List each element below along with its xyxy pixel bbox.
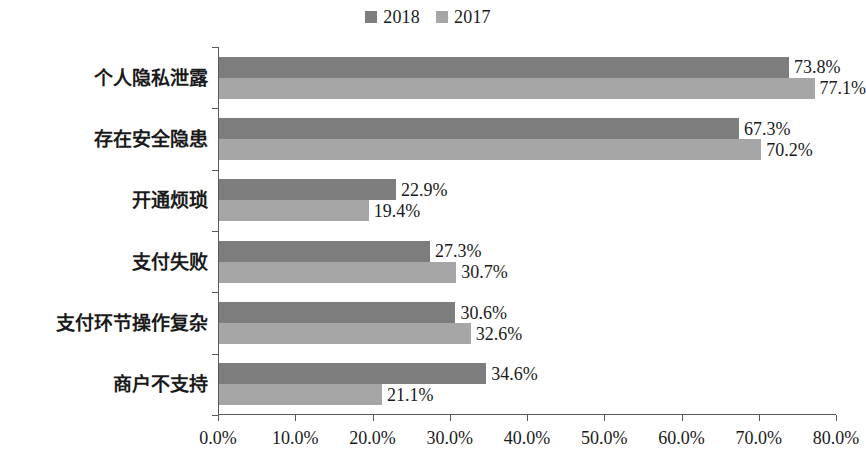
- x-axis-tick: [450, 415, 451, 421]
- bar-2018-3: [219, 179, 396, 200]
- bar-value-label: 19.4%: [374, 202, 421, 220]
- bar-value-label: 34.6%: [491, 365, 538, 383]
- bar-value-label: 32.6%: [476, 325, 523, 343]
- bar-2017-2: [219, 139, 761, 160]
- y-axis-tick: [212, 292, 218, 293]
- bar-2017-6: [219, 384, 382, 405]
- x-axis-tick: [604, 415, 605, 421]
- x-axis-tick: [373, 415, 374, 421]
- bar-value-label: 77.1%: [820, 79, 866, 97]
- legend-label-2018: 2018: [383, 8, 420, 26]
- bar-2018-1: [219, 57, 789, 78]
- bar-value-label: 27.3%: [435, 242, 482, 260]
- x-axis-tick-label: 40.0%: [504, 429, 551, 447]
- bar-2018-2: [219, 118, 739, 139]
- x-axis-tick-label: 60.0%: [658, 429, 705, 447]
- legend-entry-2018: 2018: [365, 8, 420, 26]
- bar-value-label: 30.7%: [461, 263, 508, 281]
- x-axis-tick-label: 10.0%: [272, 429, 319, 447]
- legend-entry-2017: 2017: [436, 8, 491, 26]
- y-axis-category-label: 个人隐私泄露: [10, 68, 208, 87]
- plot-area: 0.0%10.0%20.0%30.0%40.0%50.0%60.0%70.0%8…: [218, 47, 836, 415]
- y-axis-category-label: 支付失败: [10, 252, 208, 271]
- legend-swatch-2017: [436, 11, 448, 23]
- bar-value-label: 22.9%: [401, 181, 448, 199]
- x-axis-tick-label: 20.0%: [349, 429, 396, 447]
- legend-label-2017: 2017: [454, 8, 491, 26]
- y-axis-tick: [212, 415, 218, 416]
- y-axis-tick: [212, 108, 218, 109]
- x-axis-tick: [836, 415, 837, 421]
- x-axis-tick-label: 80.0%: [813, 429, 860, 447]
- bar-2018-6: [219, 363, 486, 384]
- x-axis-tick: [295, 415, 296, 421]
- bar-2018-5: [219, 302, 455, 323]
- y-axis-tick: [212, 170, 218, 171]
- bar-value-label: 30.6%: [460, 304, 507, 322]
- y-axis-category-label: 商户不支持: [10, 375, 208, 394]
- x-axis-tick: [682, 415, 683, 421]
- x-axis-tick-label: 50.0%: [581, 429, 628, 447]
- y-axis-tick: [212, 231, 218, 232]
- x-axis-tick-label: 0.0%: [199, 429, 237, 447]
- x-axis-tick-label: 70.0%: [736, 429, 783, 447]
- y-axis-category-label: 存在安全隐患: [10, 130, 208, 149]
- bar-value-label: 73.8%: [794, 58, 841, 76]
- chart-legend: 2018 2017: [0, 8, 856, 26]
- y-axis-category-label: 支付环节操作复杂: [10, 314, 208, 333]
- legend-swatch-2018: [365, 11, 377, 23]
- bar-value-label: 67.3%: [744, 120, 791, 138]
- bar-value-label: 70.2%: [766, 141, 813, 159]
- bar-2017-5: [219, 323, 471, 344]
- bar-2017-4: [219, 262, 456, 283]
- x-axis-tick: [527, 415, 528, 421]
- y-axis-tick: [212, 354, 218, 355]
- y-axis-tick: [212, 47, 218, 48]
- y-axis-category-label: 开通烦琐: [10, 191, 208, 210]
- bar-2018-4: [219, 241, 430, 262]
- bar-2017-3: [219, 200, 369, 221]
- x-axis-tick: [759, 415, 760, 421]
- bar-2017-1: [219, 78, 815, 99]
- x-axis-tick: [218, 415, 219, 421]
- bar-value-label: 21.1%: [387, 386, 434, 404]
- y-axis-line: [218, 47, 219, 415]
- x-axis-tick-label: 30.0%: [427, 429, 474, 447]
